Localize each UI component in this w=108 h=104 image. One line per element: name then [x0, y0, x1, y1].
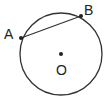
label-b: B	[84, 2, 93, 18]
point-a	[19, 36, 23, 40]
point-o-center	[59, 52, 63, 56]
label-o: O	[56, 62, 67, 78]
diagram-svg: A B O	[0, 0, 108, 104]
circle-diagram: A B O	[0, 0, 108, 104]
point-b	[79, 14, 83, 18]
label-a: A	[4, 26, 14, 42]
